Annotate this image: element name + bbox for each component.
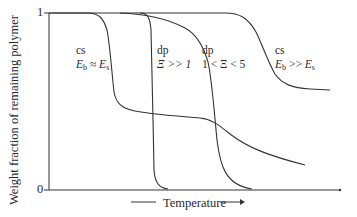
curve-dp-xi-much-greater-1 <box>140 13 168 189</box>
annotation-mechanism: cs <box>76 43 109 57</box>
chart-plot-area <box>0 0 357 217</box>
curve-dp-xi-between-1-5 <box>120 13 252 189</box>
annotation-cs-eb-much-greater-es: cs Eb >> Es <box>275 43 315 75</box>
annotation-dp-xi-between-1-5: dp 1 < Ξ < 5 <box>202 43 245 71</box>
annotation-condition: Eb >> Es <box>275 57 315 75</box>
y-tick-label-0: 0 <box>37 182 43 197</box>
x-axis-label: Temperature <box>163 196 226 211</box>
annotation-condition: Ξ >> 1 <box>157 57 191 71</box>
annotation-mechanism: dp <box>202 43 245 57</box>
thermogravimetric-chart: Weight fraction of remaining polymer 1 0… <box>0 0 357 217</box>
annotation-mechanism: cs <box>275 43 315 57</box>
annotation-mechanism: dp <box>157 43 191 57</box>
y-axis-label: Weight fraction of remaining polymer <box>7 15 23 205</box>
curve-cs-eb-approx-es <box>49 13 305 165</box>
annotation-cs-eb-approx-es: cs Eb ≈ Es <box>76 43 109 75</box>
arrow-right-icon <box>240 199 245 205</box>
y-tick-label-1: 1 <box>37 5 43 20</box>
x-axis-end-dot <box>339 189 341 191</box>
annotation-condition: Eb ≈ Es <box>76 57 109 75</box>
annotation-condition: 1 < Ξ < 5 <box>202 57 245 71</box>
annotation-dp-xi-much-greater-1: dp Ξ >> 1 <box>157 43 191 71</box>
